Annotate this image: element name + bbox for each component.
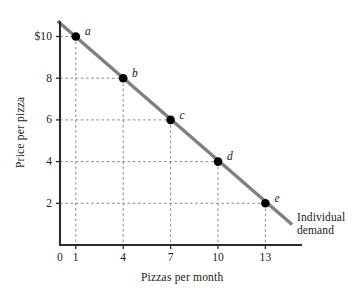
demand-curve-figure: $10 8 6 4 2 0 1 4 7 10 13 Pizzas per mon… bbox=[0, 0, 362, 295]
data-point-b bbox=[119, 74, 128, 83]
demand-curve-label-line2: demand bbox=[297, 224, 334, 236]
point-label-e: e bbox=[275, 192, 280, 204]
data-point-e bbox=[261, 199, 270, 208]
y-tick-label-8: 8 bbox=[18, 72, 52, 84]
demand-curve-line bbox=[58, 21, 293, 225]
point-label-d: d bbox=[227, 150, 233, 162]
demand-curve-label-line1: Individual bbox=[297, 211, 345, 223]
data-point-d bbox=[214, 157, 223, 166]
y-tick-label-2: 2 bbox=[18, 197, 52, 209]
point-label-a: a bbox=[85, 25, 91, 37]
x-tick-label-13: 13 bbox=[255, 251, 275, 263]
x-tick-label-4: 4 bbox=[113, 251, 133, 263]
data-point-c bbox=[166, 116, 175, 125]
x-axis-title: Pizzas per month bbox=[141, 271, 223, 283]
y-axis-title: Price per pizza bbox=[14, 97, 26, 168]
data-point-a bbox=[72, 32, 81, 41]
point-label-c: c bbox=[180, 109, 185, 121]
guide-lines bbox=[60, 37, 265, 246]
x-tick-label-1: 1 bbox=[66, 251, 86, 263]
x-tick-label-10: 10 bbox=[208, 251, 228, 263]
point-label-b: b bbox=[132, 67, 138, 79]
x-tick-label-7: 7 bbox=[161, 251, 181, 263]
demand-curve-label: Individualdemand bbox=[297, 211, 345, 237]
y-tick-label-10: $10 bbox=[18, 30, 52, 42]
